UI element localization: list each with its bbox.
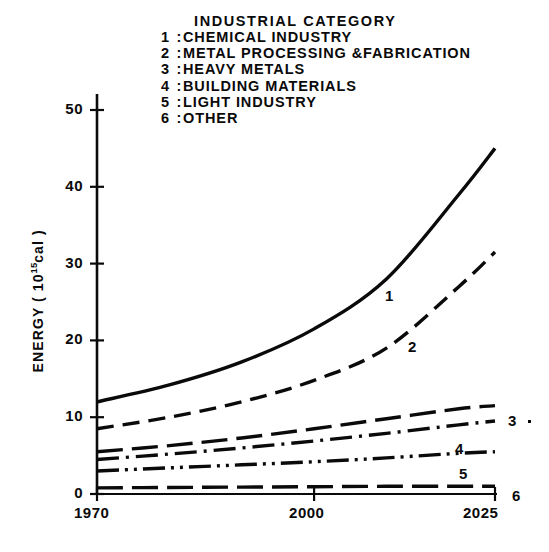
axis-lines (90, 94, 497, 501)
curve-2 (97, 252, 495, 429)
plot-canvas (0, 0, 549, 552)
data-curves (97, 148, 495, 487)
curve-6 (97, 486, 495, 488)
curve-3 (97, 406, 495, 452)
chart-figure: INDUSTRIAL CATEGORY 1 : CHEMICAL INDUSTR… (0, 0, 549, 552)
curve-1 (97, 148, 495, 401)
